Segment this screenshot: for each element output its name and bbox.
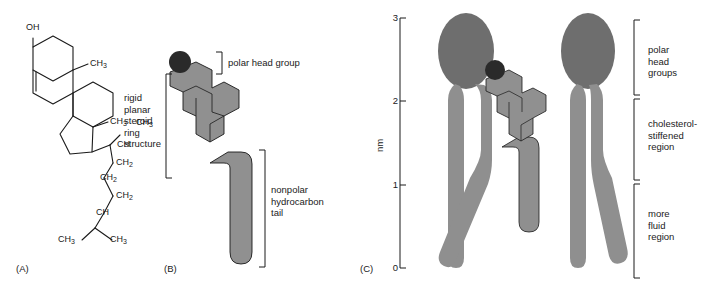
label-polar-head-groups: polar head groups xyxy=(648,44,704,79)
cholesterol-middle-rings xyxy=(486,70,546,141)
phospholipid-left-head xyxy=(438,13,494,89)
nm-tick-0: 0 xyxy=(384,262,398,273)
phospholipid-right-head xyxy=(561,13,615,89)
nm-axis xyxy=(400,18,406,268)
nm-tick-3: 3 xyxy=(384,12,398,23)
cholesterol-figure: OH CH3 CH3 CH3 CH CH2 CH2 CH2 CH CH3 CH3… xyxy=(0,0,709,287)
phospholipid-left xyxy=(438,13,494,268)
bracket-more-fluid-region xyxy=(634,184,640,278)
cholesterol-middle-head xyxy=(485,60,505,80)
phospholipid-right-tail-1 xyxy=(570,84,586,268)
nm-tick-2: 2 xyxy=(384,95,398,106)
label-more-fluid-region: more fluid region xyxy=(648,208,704,243)
bracket-cholesterol-stiffened-region xyxy=(634,99,640,180)
nm-tick-1: 1 xyxy=(384,179,398,190)
panel-c-label: (C) xyxy=(360,263,373,274)
phospholipid-left-tail-2 xyxy=(439,84,492,267)
phospholipid-right xyxy=(561,13,628,268)
nm-axis-title: nm xyxy=(374,139,385,152)
cholesterol-middle-tail xyxy=(502,137,539,232)
panel-c-bilayer xyxy=(0,0,709,287)
cholesterol-middle xyxy=(485,60,546,232)
phospholipid-right-tail-2 xyxy=(589,84,628,264)
label-cholesterol-stiffened-region: cholesterol- stiffened region xyxy=(648,118,708,153)
bracket-polar-head-groups xyxy=(634,20,640,95)
